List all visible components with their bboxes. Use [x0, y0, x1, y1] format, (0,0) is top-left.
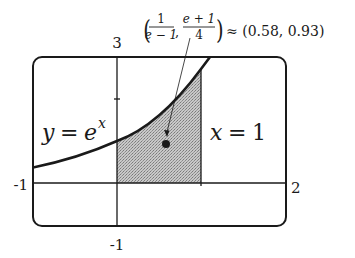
x-min-label: -1 [13, 176, 28, 194]
svg-text:x: x [98, 115, 106, 131]
svg-text:e + 1: e + 1 [183, 12, 215, 26]
svg-text:,: , [175, 24, 179, 39]
vertical-line-label: x = 1 [210, 120, 266, 145]
svg-text:=: = [60, 120, 78, 145]
svg-text:y: y [41, 120, 55, 145]
svg-text:4: 4 [195, 28, 203, 42]
svg-text:x: x [210, 120, 223, 145]
svg-text:=: = [228, 120, 246, 145]
svg-text:≈ (0.58, 0.93): ≈ (0.58, 0.93) [226, 23, 324, 39]
svg-text:e: e [84, 120, 97, 145]
curve-label: y = e x [41, 115, 106, 145]
graph-figure: 3 -1 2 -1 y = e x x = 1 ( 1 e − 1 , e + … [0, 0, 355, 258]
y-min-label: -1 [110, 236, 125, 254]
svg-text:e − 1: e − 1 [145, 28, 177, 42]
y-max-label: 3 [112, 34, 122, 52]
svg-text:1: 1 [157, 12, 165, 26]
centroid-point [162, 140, 170, 148]
svg-text:): ) [216, 15, 224, 44]
centroid-annotation: ( 1 e − 1 , e + 1 4 ) ≈ (0.58, 0.93) [143, 12, 324, 45]
x-max-label: 2 [291, 179, 301, 197]
svg-text:1: 1 [252, 120, 266, 145]
